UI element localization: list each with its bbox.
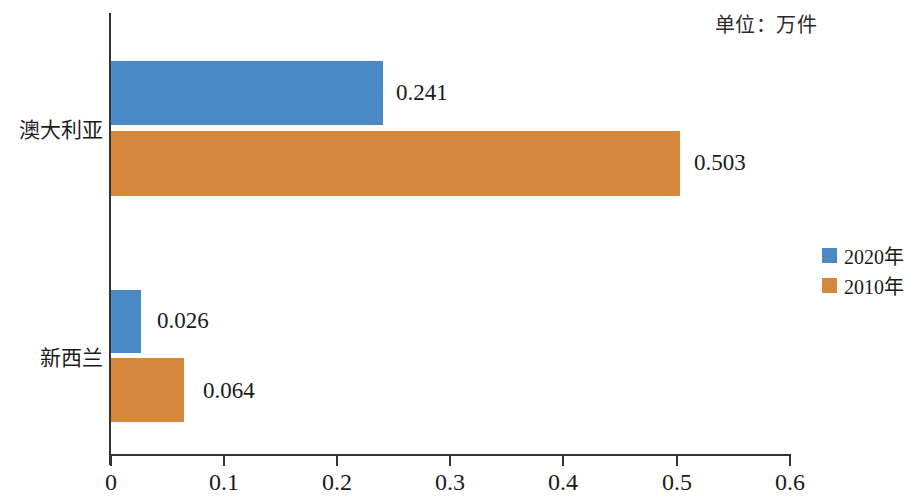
x-tick-mark-5 [676,456,678,466]
bar-value-australia-2020: 0.241 [396,80,448,106]
chart-legend: 2020年 2010年 [822,240,904,300]
y-category-label-australia: 澳大利亚 [8,113,103,143]
x-tick-mark-3 [449,456,451,466]
legend-item-2010[interactable]: 2010年 [822,270,904,300]
x-tick-mark-6 [789,456,791,466]
unit-annotation: 单位：万件 [715,9,818,38]
bar-value-new-zealand-2010: 0.064 [203,378,255,404]
x-tick-mark-4 [562,456,564,466]
legend-label-2010: 2010年 [844,271,904,300]
legend-swatch-2020-icon [822,248,837,263]
x-tick-label-2: 0.2 [322,469,352,496]
x-tick-label-5: 0.5 [662,469,692,496]
x-tick-mark-1 [223,456,225,466]
y-category-label-new-zealand: 新西兰 [26,341,103,371]
x-tick-label-6: 0.6 [775,469,805,496]
bar-australia-2010 [111,131,680,196]
legend-item-2020[interactable]: 2020年 [822,240,904,270]
x-tick-mark-2 [336,456,338,466]
x-tick-label-0: 0 [105,469,117,496]
x-tick-label-4: 0.4 [548,469,578,496]
bar-chart-figure: 单位：万件 0 0.1 0.2 0.3 0.4 0.5 0.6 澳大利亚 新西兰… [0,0,905,499]
bar-value-new-zealand-2020: 0.026 [157,308,209,334]
bar-new-zealand-2020 [111,290,141,353]
legend-label-2020: 2020年 [844,241,904,270]
bar-new-zealand-2010 [111,358,184,422]
bar-australia-2020 [111,61,383,125]
x-tick-label-3: 0.3 [435,469,465,496]
bar-value-australia-2010: 0.503 [694,150,746,176]
x-tick-label-1: 0.1 [209,469,239,496]
x-tick-mark-0 [110,456,112,466]
legend-swatch-2010-icon [822,278,837,293]
